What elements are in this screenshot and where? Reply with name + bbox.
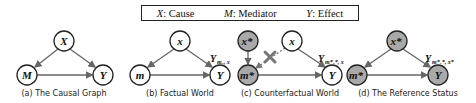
svg-text:x*: x* bbox=[241, 35, 254, 47]
svg-text:m*: m* bbox=[240, 69, 255, 81]
svg-text:M: M bbox=[21, 69, 33, 81]
causal-diagrams: X M Y x m Y Y mₓ, x bbox=[0, 0, 476, 103]
svg-text:X: X bbox=[59, 35, 68, 47]
panel-b: x m Y Y mₓ, x bbox=[130, 31, 230, 85]
svg-text:m: m bbox=[136, 69, 145, 81]
svg-text:m*ₓ*, x: m*ₓ*, x bbox=[325, 59, 344, 65]
caption-b: (b) Factual World bbox=[146, 89, 214, 98]
svg-text:m*: m* bbox=[349, 69, 364, 81]
caption-c: (c) Counterfactual World bbox=[241, 89, 339, 98]
svg-text:mₓ, x: mₓ, x bbox=[217, 59, 230, 65]
panel-d: x* m* Y Y m*ₓ*, x* bbox=[347, 31, 455, 85]
svg-text:Y: Y bbox=[210, 53, 217, 64]
caption-d: (d) The Reference Status bbox=[358, 89, 458, 98]
caption-a: (a) The Causal Graph bbox=[21, 89, 106, 98]
svg-text:m*ₓ*, x*: m*ₓ*, x* bbox=[432, 59, 455, 65]
svg-text:x*: x* bbox=[390, 35, 403, 47]
panel-a: X M Y bbox=[17, 31, 113, 85]
svg-text:x: x bbox=[176, 35, 183, 47]
cross-icon bbox=[265, 52, 275, 62]
svg-text:Y: Y bbox=[425, 53, 432, 64]
panel-c: x* x m* Y Y m*ₓ*, x bbox=[238, 31, 344, 85]
svg-text:x: x bbox=[288, 35, 295, 47]
svg-text:Y: Y bbox=[318, 53, 325, 64]
